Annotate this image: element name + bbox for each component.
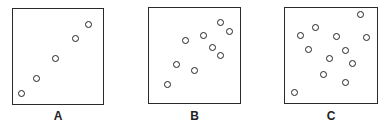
data-point-marker: [217, 52, 224, 59]
data-point-marker: [33, 75, 40, 82]
data-point-marker: [18, 90, 25, 97]
data-point-marker: [357, 11, 364, 18]
scatter-panel-a: [12, 8, 104, 105]
data-point-marker: [297, 32, 304, 39]
data-point-marker: [209, 44, 216, 51]
data-point-marker: [349, 60, 356, 67]
panel-label-a: A: [54, 109, 63, 123]
data-point-marker: [342, 79, 349, 86]
data-point-marker: [333, 33, 340, 40]
data-point-marker: [305, 46, 312, 53]
data-point-marker: [182, 37, 189, 44]
data-point-marker: [291, 89, 298, 96]
scatter-panel-c: [284, 7, 378, 104]
data-point-marker: [320, 71, 327, 78]
data-point-marker: [52, 55, 59, 62]
data-point-marker: [226, 28, 233, 35]
data-point-marker: [72, 35, 79, 42]
data-point-marker: [217, 19, 224, 26]
data-point-marker: [363, 34, 370, 41]
data-point-marker: [164, 81, 171, 88]
data-point-marker: [191, 67, 198, 74]
data-point-marker: [200, 32, 207, 39]
panel-label-b: B: [190, 109, 199, 123]
data-point-marker: [312, 24, 319, 31]
data-point-marker: [85, 21, 92, 28]
panel-label-c: C: [327, 109, 336, 123]
data-point-marker: [173, 61, 180, 68]
data-point-marker: [326, 55, 333, 62]
data-point-marker: [342, 47, 349, 54]
scatter-panel-b: [148, 7, 241, 104]
